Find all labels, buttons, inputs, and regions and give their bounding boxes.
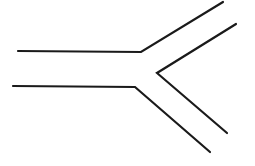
lower-outer-wall-line [13, 86, 210, 152]
diagram-canvas [0, 0, 255, 166]
upper-outer-wall-line [18, 2, 223, 52]
bifurcation-diagram [0, 0, 255, 166]
